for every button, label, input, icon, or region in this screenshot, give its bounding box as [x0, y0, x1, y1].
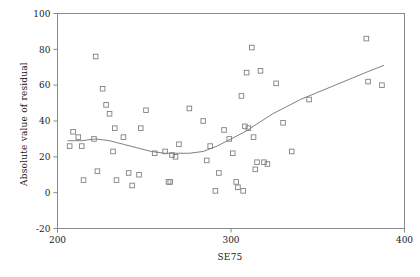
y-tick-label: 0	[45, 188, 51, 198]
data-point-marker	[253, 167, 258, 172]
data-point-marker	[239, 94, 244, 99]
data-point-marker	[241, 189, 246, 194]
data-point-marker	[364, 36, 369, 41]
data-point-marker	[114, 178, 119, 183]
lowess-smoother-line	[68, 65, 384, 153]
x-tick-label: 400	[396, 235, 413, 245]
data-point-marker	[201, 119, 206, 124]
y-tick-label: 40	[39, 116, 51, 126]
data-point-marker	[234, 180, 239, 185]
data-point-marker	[217, 171, 222, 176]
data-point-marker	[262, 160, 267, 165]
x-tick-label: 300	[222, 235, 239, 245]
data-point-marker	[251, 135, 256, 140]
data-point-marker	[76, 135, 81, 140]
axes-group: -20020406080100200300400	[33, 9, 413, 245]
y-tick-label: 100	[33, 9, 50, 19]
data-point-marker	[166, 180, 171, 185]
data-point-marker	[177, 142, 182, 147]
data-point-marker	[138, 126, 143, 131]
x-tick-label: 200	[49, 235, 66, 245]
data-point-marker	[187, 106, 192, 111]
plot-canvas: -20020406080100200300400	[0, 0, 420, 277]
data-point-marker	[380, 83, 385, 88]
data-point-marker	[112, 126, 117, 131]
data-point-marker	[307, 97, 312, 102]
scatter-plot-figure: Absolute value of residual SE75 -2002040…	[0, 0, 420, 277]
data-points-group	[67, 36, 384, 193]
data-point-marker	[144, 108, 149, 113]
data-point-marker	[230, 151, 235, 156]
data-point-marker	[104, 103, 109, 108]
data-point-marker	[236, 185, 241, 190]
data-point-marker	[111, 149, 116, 154]
y-axis-title: Absolute value of residual	[19, 54, 29, 194]
data-point-marker	[81, 178, 86, 183]
data-point-marker	[93, 54, 98, 59]
plot-frame	[58, 14, 405, 229]
data-point-marker	[79, 144, 84, 149]
data-point-marker	[366, 79, 371, 84]
data-point-marker	[168, 180, 173, 185]
data-point-marker	[130, 183, 135, 188]
data-point-marker	[281, 120, 286, 125]
y-tick-label: 80	[39, 45, 51, 55]
data-point-marker	[255, 160, 260, 165]
data-point-marker	[71, 129, 76, 134]
data-point-marker	[126, 171, 131, 176]
data-point-marker	[121, 135, 126, 140]
data-point-marker	[258, 69, 263, 74]
y-tick-label: 60	[39, 80, 51, 90]
y-tick-label: 20	[39, 152, 51, 162]
data-point-marker	[107, 112, 112, 117]
x-axis-title: SE75	[160, 252, 300, 262]
data-point-marker	[213, 189, 218, 194]
data-point-marker	[67, 144, 72, 149]
data-point-marker	[274, 81, 279, 86]
data-point-marker	[137, 172, 142, 177]
y-tick-label: -20	[36, 224, 51, 234]
data-point-marker	[100, 86, 105, 91]
data-point-marker	[289, 149, 294, 154]
data-point-marker	[250, 45, 255, 50]
data-point-marker	[95, 169, 100, 174]
data-point-marker	[222, 128, 227, 133]
data-point-marker	[244, 70, 249, 75]
data-point-marker	[204, 158, 209, 163]
